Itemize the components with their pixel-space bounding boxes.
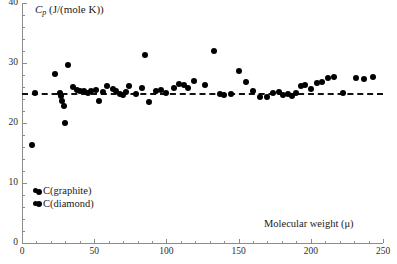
y-tick-major xyxy=(23,183,27,184)
data-point xyxy=(202,82,208,88)
y-tick-minor xyxy=(23,27,25,28)
data-point xyxy=(32,90,38,96)
y-tick-minor xyxy=(23,159,25,160)
data-point xyxy=(93,87,99,93)
legend-marker-icon xyxy=(33,188,38,193)
y-tick-minor xyxy=(23,195,25,196)
legend-label: C(graphite) xyxy=(43,184,91,197)
x-tick-label: 250 xyxy=(376,247,390,257)
x-tick-label: 0 xyxy=(20,247,25,257)
y-tick-minor xyxy=(23,15,25,16)
data-point xyxy=(302,82,308,88)
x-tick-minor xyxy=(296,241,297,243)
data-point xyxy=(353,75,359,81)
x-tick-minor xyxy=(195,241,196,243)
x-tick-minor xyxy=(51,241,52,243)
x-tick-major xyxy=(383,239,384,243)
x-tick-label: 200 xyxy=(304,247,318,257)
data-point xyxy=(236,68,242,74)
x-tick-major xyxy=(239,239,240,243)
y-tick-minor xyxy=(23,75,25,76)
x-axis-line xyxy=(22,243,383,244)
y-axis-subscript: p xyxy=(42,8,46,17)
legend-label: C(diamond) xyxy=(43,197,94,210)
reference-line-dulong-petit xyxy=(22,93,383,95)
data-point xyxy=(257,94,263,100)
x-tick-minor xyxy=(325,241,326,243)
x-tick-major xyxy=(166,239,167,243)
data-point xyxy=(133,91,139,97)
y-tick-minor xyxy=(23,231,25,232)
data-point xyxy=(293,90,299,96)
data-point xyxy=(340,90,346,96)
x-tick-minor xyxy=(80,241,81,243)
y-tick-major xyxy=(23,3,27,4)
x-tick-minor xyxy=(152,241,153,243)
x-tick-minor xyxy=(123,241,124,243)
x-tick-minor xyxy=(369,241,370,243)
x-tick-minor xyxy=(138,241,139,243)
y-axis-label: Cp (J/(mole K)) xyxy=(35,4,104,17)
y-tick-label: 30 xyxy=(2,58,18,68)
data-point xyxy=(308,86,314,92)
x-tick-label: 50 xyxy=(89,247,99,257)
data-point xyxy=(243,79,249,85)
legend-item: C(graphite) xyxy=(33,184,94,197)
y-tick-minor xyxy=(23,219,25,220)
x-tick-minor xyxy=(354,241,355,243)
y-tick-label: 20 xyxy=(2,118,18,128)
x-tick-minor xyxy=(181,241,182,243)
y-tick-label: 10 xyxy=(2,178,18,188)
y-tick-minor xyxy=(23,207,25,208)
data-point xyxy=(361,76,367,82)
y-tick-major xyxy=(23,63,27,64)
x-axis-label: Molecular weight (μ) xyxy=(264,219,354,230)
data-point xyxy=(62,120,68,126)
y-tick-minor xyxy=(23,87,25,88)
y-tick-minor xyxy=(23,171,25,172)
data-point xyxy=(29,142,35,148)
y-axis-units: (J/(mole K)) xyxy=(49,3,104,15)
y-tick-minor xyxy=(23,39,25,40)
x-tick-label: 100 xyxy=(159,247,173,257)
data-point xyxy=(228,91,234,97)
data-point xyxy=(52,71,58,77)
data-point xyxy=(221,92,227,98)
y-tick-major xyxy=(23,243,27,244)
y-tick-minor xyxy=(23,135,25,136)
x-tick-minor xyxy=(340,241,341,243)
x-tick-minor xyxy=(109,241,110,243)
data-point xyxy=(191,78,197,84)
y-tick-label: 40 xyxy=(2,0,18,8)
x-tick-major xyxy=(94,239,95,243)
data-point xyxy=(142,52,148,58)
data-point xyxy=(211,48,217,54)
x-tick-minor xyxy=(65,241,66,243)
data-point xyxy=(126,83,132,89)
y-tick-minor xyxy=(23,111,25,112)
data-point xyxy=(370,74,376,80)
y-tick-label: 0 xyxy=(2,238,18,248)
legend-marker-icon xyxy=(33,201,38,206)
y-tick-minor xyxy=(23,99,25,100)
y-tick-minor xyxy=(23,51,25,52)
data-point xyxy=(146,99,152,105)
x-tick-major xyxy=(311,239,312,243)
data-point xyxy=(61,103,67,109)
x-tick-minor xyxy=(253,241,254,243)
data-point xyxy=(123,89,129,95)
legend-item: C(diamond) xyxy=(33,197,94,210)
data-point xyxy=(65,62,71,68)
y-tick-minor xyxy=(23,147,25,148)
x-tick-minor xyxy=(36,241,37,243)
x-tick-minor xyxy=(267,241,268,243)
data-point xyxy=(185,85,191,91)
legend: C(graphite)C(diamond) xyxy=(33,184,94,210)
x-tick-minor xyxy=(224,241,225,243)
y-tick-major xyxy=(23,123,27,124)
data-point xyxy=(96,98,102,104)
data-point xyxy=(331,74,337,80)
data-point xyxy=(163,90,169,96)
x-tick-minor xyxy=(210,241,211,243)
x-tick-label: 150 xyxy=(231,247,245,257)
